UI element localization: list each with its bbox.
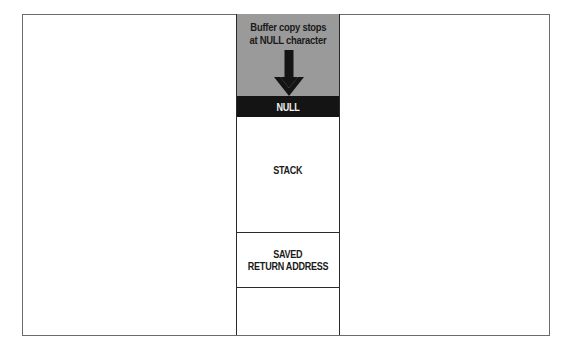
saved-label-line-2: RETURN ADDRESS [248,260,328,272]
null-cell: NULL [237,96,339,117]
empty-bottom-cell [237,287,339,335]
annotation-line-2: at NULL character [250,34,327,47]
null-label: NULL [276,101,299,113]
buffer-region: Buffer copy stops at NULL character [237,14,339,96]
saved-label-line-1: SAVED [273,248,302,260]
memory-stack-column: Buffer copy stops at NULL character NULL… [236,14,340,335]
stack-cell: STACK [237,117,339,232]
buffer-annotation: Buffer copy stops at NULL character [241,21,335,47]
arrow-down-icon [274,50,304,97]
stack-label: STACK [273,164,302,176]
annotation-line-1: Buffer copy stops [250,21,326,34]
saved-return-address-cell: SAVED RETURN ADDRESS [237,232,339,287]
